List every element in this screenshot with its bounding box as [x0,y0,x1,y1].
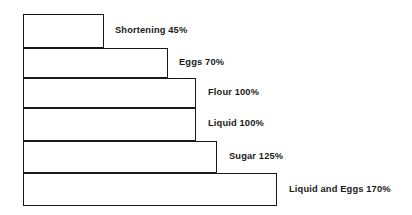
bar-liquid [23,108,196,141]
bar-label-flour: Flour 100% [208,88,259,97]
bar-label-liquid: Liquid 100% [208,119,264,128]
bar-label-sugar: Sugar 125% [229,152,283,161]
bar-eggs [23,48,168,78]
bar-label-liquid-and-eggs: Liquid and Eggs 170% [289,185,391,194]
bar-shortening [23,14,104,48]
bar-label-eggs: Eggs 70% [179,58,224,67]
bar-flour [23,78,196,108]
bar-sugar [23,141,217,173]
bar-liquid-and-eggs [23,173,277,206]
stepped-bar-chart: Shortening 45%Eggs 70%Flour 100%Liquid 1… [0,0,412,215]
bar-label-shortening: Shortening 45% [115,26,187,35]
